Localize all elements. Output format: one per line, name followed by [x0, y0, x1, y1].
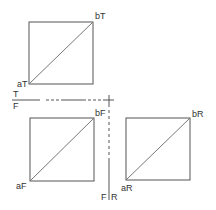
front-view-line-ab [30, 118, 94, 181]
label-aF: aF [16, 182, 27, 191]
top-view [29, 22, 93, 84]
label-F-horizontal: F [13, 102, 19, 111]
front-view [30, 118, 94, 181]
label-aT: aT [17, 80, 28, 89]
label-bR: bR [192, 110, 204, 119]
label-bF: bF [95, 109, 106, 118]
label-T: T [13, 90, 19, 99]
label-F-vertical: F [101, 193, 107, 202]
projection-diagram [0, 0, 216, 210]
top-view-line-ab [29, 22, 93, 84]
right-view-line-ab [126, 118, 190, 180]
label-bT: bT [95, 12, 106, 21]
right-view [126, 118, 190, 180]
label-R-vertical: R [111, 193, 118, 202]
label-aR: aR [121, 184, 133, 193]
